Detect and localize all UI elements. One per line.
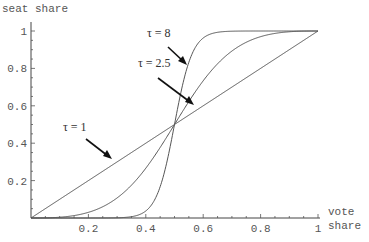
y-tick-label: 0.6 xyxy=(7,101,27,113)
arrow-icon xyxy=(158,78,190,102)
seat-vote-chart: seat share 0.20.40.60.810.20.40.60.81 vo… xyxy=(0,0,369,242)
arrowhead-icon xyxy=(103,150,112,159)
annotation-label: τ = 8 xyxy=(147,26,171,40)
y-tick-label: 0.4 xyxy=(7,138,27,150)
annotation-tau-1: τ = 1 xyxy=(63,120,112,159)
x-axis-label-line1: vote xyxy=(328,206,354,218)
y-tick-label: 1 xyxy=(20,26,27,38)
y-tick-label: 0.8 xyxy=(7,63,27,75)
annotation-label: τ = 1 xyxy=(63,120,87,134)
x-tick-label: 0.4 xyxy=(136,223,156,235)
y-axis-label: seat share xyxy=(2,3,68,15)
annotation-label: τ = 2.5 xyxy=(138,56,171,70)
arrow-icon xyxy=(86,139,108,156)
x-axis-label-line2: share xyxy=(328,220,361,232)
x-tick-label: 0.8 xyxy=(251,223,271,235)
x-tick-label: 1 xyxy=(315,223,322,235)
arrowhead-icon xyxy=(185,96,194,105)
x-tick-label: 0.6 xyxy=(193,223,213,235)
x-tick-label: 0.2 xyxy=(78,223,98,235)
y-tick-label: 0.2 xyxy=(7,176,27,188)
